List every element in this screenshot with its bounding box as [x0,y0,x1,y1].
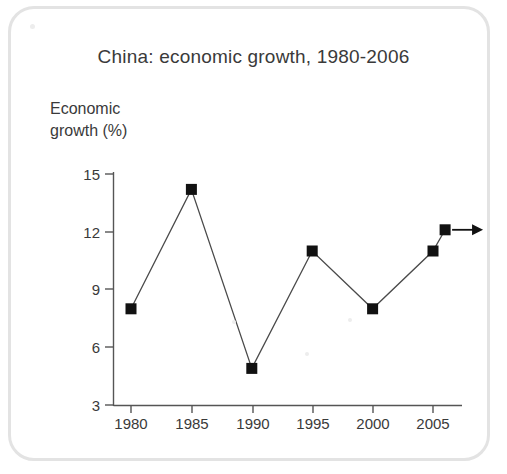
data-point-marker [186,184,197,195]
x-tick-label-1995: 1995 [296,415,329,432]
data-point-marker [126,303,137,314]
scan-speck [305,352,309,356]
y-tick-label-3: 3 [92,397,100,414]
series-line-economic-growth [131,189,445,368]
data-point-marker [246,363,257,374]
data-point-marker [367,303,378,314]
x-tick-label-1980: 1980 [114,415,147,432]
x-tick-label-2000: 2000 [356,415,389,432]
series-markers [126,184,451,374]
y-tick-label-9: 9 [92,281,100,298]
y-tick-label-6: 6 [92,339,100,356]
y-tick-label-15: 15 [83,166,100,183]
data-point-marker [307,246,318,257]
x-tick-label-1985: 1985 [175,415,208,432]
scan-speck [348,318,352,322]
scan-speck [232,320,236,324]
x-tick-label-1990: 1990 [236,415,269,432]
line-chart-plot: 15 12 9 6 3 1980 1985 1990 1995 2000 200… [0,0,507,474]
data-point-marker [440,224,451,235]
x-tick-label-2005: 2005 [416,415,449,432]
data-point-marker [428,246,439,257]
scan-speck [30,24,35,29]
projection-arrow [452,224,483,235]
y-tick-label-12: 12 [83,224,100,241]
